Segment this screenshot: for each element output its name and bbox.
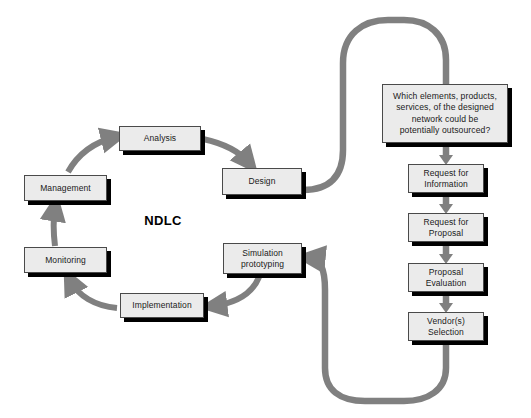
node-request-for-proposal-label: Request for Proposal bbox=[423, 217, 468, 238]
diagram-connectors-layer bbox=[0, 0, 531, 418]
node-monitoring[interactable]: Monitoring bbox=[24, 247, 107, 273]
node-proposal-evaluation[interactable]: Proposal Evaluation bbox=[408, 263, 484, 292]
node-outsourcing-question[interactable]: Which elements, products, services, of t… bbox=[382, 84, 508, 143]
node-vendors-selection-label: Vendor(s) Selection bbox=[427, 316, 465, 337]
process-arrow-rfi-to-rfp bbox=[439, 194, 453, 214]
cycle-arrow-management-to-analysis bbox=[68, 137, 115, 172]
node-implementation[interactable]: Implementation bbox=[120, 293, 204, 318]
node-design[interactable]: Design bbox=[222, 168, 302, 195]
node-vendors-selection[interactable]: Vendor(s) Selection bbox=[408, 312, 484, 341]
node-simulation-prototyping[interactable]: Simulation prototyping bbox=[223, 243, 302, 274]
node-analysis-label: Analysis bbox=[144, 133, 176, 144]
node-proposal-evaluation-label: Proposal Evaluation bbox=[426, 267, 467, 288]
node-implementation-label: Implementation bbox=[132, 300, 192, 311]
process-arrow-question-to-rfi bbox=[439, 144, 453, 165]
process-arrow-rfp-to-evaluation bbox=[439, 243, 453, 264]
cycle-arrow-design-to-simulation bbox=[300, 196, 309, 241]
cycle-arrow-simulation-to-implementation bbox=[213, 277, 259, 306]
ndlc-outsourcing-diagram: Analysis Design Simulation prototyping I… bbox=[0, 0, 531, 418]
node-analysis[interactable]: Analysis bbox=[119, 126, 201, 151]
process-arrow-evaluation-to-vendors bbox=[439, 293, 453, 313]
node-monitoring-label: Monitoring bbox=[45, 255, 86, 266]
node-design-label: Design bbox=[248, 176, 275, 187]
node-request-for-information[interactable]: Request for Information bbox=[408, 164, 484, 193]
node-request-for-information-label: Request for Information bbox=[423, 168, 468, 189]
node-request-for-proposal[interactable]: Request for Proposal bbox=[408, 213, 484, 242]
cycle-arrow-monitoring-to-management bbox=[54, 207, 56, 246]
cycle-arrow-analysis-to-design bbox=[203, 139, 249, 163]
diagram-center-title: NDLC bbox=[113, 213, 213, 228]
node-outsourcing-question-label: Which elements, products, services, of t… bbox=[393, 91, 497, 137]
node-management-label: Management bbox=[40, 183, 91, 194]
cycle-arrow-implementation-to-monitoring bbox=[70, 280, 117, 308]
node-management[interactable]: Management bbox=[24, 175, 107, 201]
node-simulation-prototyping-label: Simulation prototyping bbox=[241, 248, 284, 269]
